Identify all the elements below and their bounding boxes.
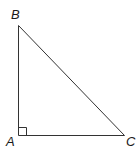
- vertex-label-b: B: [11, 7, 20, 22]
- vertex-label-a: A: [5, 134, 15, 149]
- vertex-label-c: C: [126, 134, 136, 149]
- edge-bc: [19, 26, 125, 136]
- right-triangle-diagram: B A C: [0, 0, 138, 149]
- right-angle-marker: [19, 128, 27, 136]
